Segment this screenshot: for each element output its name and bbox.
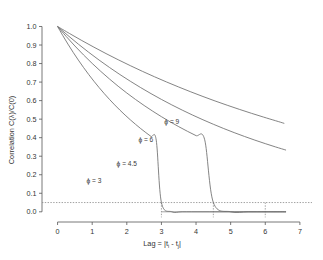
x-axis-title-group: Lag = |ti - tj| (143, 239, 181, 249)
correlation-decay-chart: 0.00.10.20.30.40.50.60.70.80.91.0 012345… (0, 0, 323, 260)
y-axis-title-group: Correlation C(λ)/C(0) (7, 96, 16, 165)
chart-figure: 0.00.10.20.30.40.50.60.70.80.91.0 012345… (0, 0, 323, 260)
x-tick-label: 3 (159, 227, 163, 236)
x-tick-label: 1 (90, 227, 94, 236)
y-tick-label: 0.1 (27, 189, 37, 198)
curve-label-0: ϕ = 3 (86, 177, 101, 185)
y-tick-label: 0.3 (27, 152, 37, 161)
y-tick-label: 0.8 (27, 59, 37, 68)
curve-labels-group: ϕ = 3ϕ = 4.5ϕ = 6ϕ = 9 (86, 118, 179, 185)
y-axis-ticks: 0.00.10.20.30.40.50.60.70.80.91.0 (27, 22, 43, 216)
guide-lines-group (42, 203, 312, 218)
curve-label-1: ϕ = 4.5 (117, 160, 138, 168)
y-tick-label: 0.0 (27, 207, 37, 216)
x-tick-label: 5 (229, 227, 233, 236)
x-tick-label: 6 (263, 227, 267, 236)
x-tick-label: 7 (298, 227, 302, 236)
x-tick-label: 4 (194, 227, 198, 236)
y-tick-label: 0.7 (27, 78, 37, 87)
y-tick-label: 0.4 (27, 133, 37, 142)
decay-curve-2 (58, 26, 286, 150)
x-axis-group: 01234567 (56, 222, 302, 236)
x-axis-ticks: 01234567 (56, 222, 302, 236)
y-tick-label: 0.6 (27, 96, 37, 105)
y-axis-title: Correlation C(λ)/C(0) (7, 96, 16, 165)
x-axis-title: Lag = |ti - tj| (143, 239, 181, 249)
curve-label-2: ϕ = 6 (138, 136, 153, 144)
y-tick-label: 1.0 (27, 22, 37, 31)
decay-curve-3 (58, 26, 285, 123)
y-tick-label: 0.2 (27, 170, 37, 179)
x-tick-label: 2 (125, 227, 129, 236)
curve-label-3: ϕ = 9 (164, 118, 179, 126)
y-axis-group: 0.00.10.20.30.40.50.60.70.80.91.0 (27, 22, 43, 216)
x-tick-label: 0 (56, 227, 60, 236)
y-tick-label: 0.9 (27, 41, 37, 50)
y-tick-label: 0.5 (27, 115, 37, 124)
